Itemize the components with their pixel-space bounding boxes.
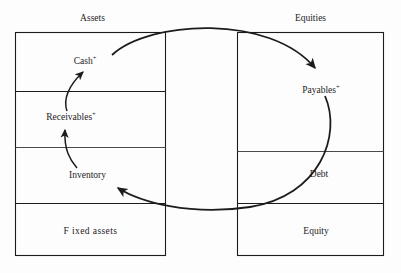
assets-row-inventory-label: Inventory xyxy=(69,170,106,180)
assets-row-fixed-assets: F ixed assets xyxy=(38,227,143,237)
assets-row-receivables-superscript: + xyxy=(92,110,96,117)
equities-box xyxy=(238,33,384,256)
assets-heading: Assets xyxy=(0,14,185,24)
equities-row-equity-label: Equity xyxy=(303,226,328,236)
flow-payables-to-inventory xyxy=(118,96,330,210)
equities-row-payables: Payables+ xyxy=(286,86,356,96)
assets-row-cash: Cash+ xyxy=(55,57,115,67)
equities-heading: Equities xyxy=(232,14,389,24)
assets-row-receivables: Receivables+ xyxy=(30,113,112,123)
flow-inventory-to-receivables xyxy=(65,130,77,168)
equities-row-payables-label: Payables xyxy=(302,85,336,95)
equities-row-payables-superscript: + xyxy=(336,83,340,90)
assets-row-receivables-label: Receivables xyxy=(46,112,92,122)
assets-row-inventory: Inventory xyxy=(55,171,120,181)
balance-sheet-cycle-diagram: Assets Equities Cash+ Receivables+ Inven… xyxy=(0,0,401,273)
assets-row-cash-superscript: + xyxy=(93,54,97,61)
equities-row-equity: Equity xyxy=(286,227,346,237)
flow-cash-to-payables xyxy=(112,28,315,68)
assets-row-cash-label: Cash xyxy=(74,56,93,66)
assets-row-fixed-assets-label: F ixed assets xyxy=(64,226,118,236)
equities-row-debt: Debt xyxy=(296,170,342,180)
equities-row-debt-label: Debt xyxy=(310,169,328,179)
